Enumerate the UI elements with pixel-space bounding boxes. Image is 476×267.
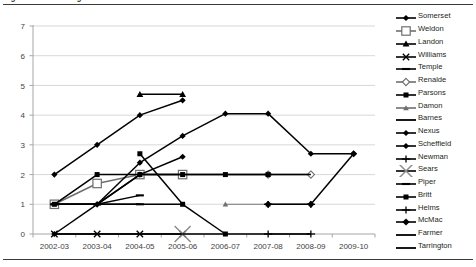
data-point-marker: [402, 155, 410, 162]
gridlines-group: [33, 26, 375, 234]
legend-item-label: Piper: [417, 178, 436, 186]
legend-marker-icon: [395, 100, 417, 112]
x-tick-label: 2008-09: [296, 242, 326, 251]
legend-item-label: Tarrington: [417, 242, 452, 250]
legend-item[interactable]: Somerset: [395, 10, 476, 23]
data-point-marker: [95, 172, 100, 177]
legend-marker-icon: [395, 36, 417, 48]
legend-item-label: Parsons: [417, 89, 446, 97]
legend-item[interactable]: Landon: [395, 36, 476, 49]
legend-item[interactable]: Farmer: [395, 227, 476, 240]
data-point-marker: [93, 179, 101, 187]
legend-item[interactable]: Renalde: [395, 74, 476, 87]
series-segment: [54, 204, 97, 234]
legend-item-label: Scheffield: [417, 140, 451, 148]
series-somerset: [51, 97, 185, 177]
chart-legend: SomersetWeldonLandonWilliamsTempleRenald…: [395, 10, 476, 252]
legend-item-label: Helms: [417, 204, 440, 212]
legend-item[interactable]: Piper: [395, 176, 476, 189]
data-point-marker: [404, 194, 409, 199]
legend-marker-icon: [395, 240, 417, 252]
legend-item[interactable]: Parsons: [395, 87, 476, 100]
legend-item[interactable]: Damon: [395, 99, 476, 112]
y-tick-label: 6: [21, 52, 26, 61]
data-point-marker: [403, 143, 409, 149]
legend-item-label: Somerset: [417, 12, 451, 20]
data-point-marker: [403, 15, 409, 21]
x-tick-label: 2002-03: [40, 242, 70, 251]
legend-marker-icon: [395, 74, 417, 86]
legend-item-label: Renalde: [417, 76, 446, 84]
legend-marker-icon: [395, 214, 417, 226]
legend-item[interactable]: Temple: [395, 61, 476, 74]
data-point-marker: [404, 92, 409, 97]
legend-item-label: Nexus: [417, 127, 440, 135]
legend-marker-icon: [395, 138, 417, 150]
legend-item-label: Sears: [417, 165, 438, 173]
legend-item-label: McMac: [417, 216, 442, 224]
series-segment: [311, 154, 354, 205]
legend-item[interactable]: Britt: [395, 189, 476, 202]
legend-item-label: Barnes: [417, 114, 442, 122]
legend-item[interactable]: McMac: [395, 214, 476, 227]
legend-marker-icon: [395, 87, 417, 99]
series-segment: [183, 114, 226, 136]
legend-item-label: Temple: [417, 63, 442, 71]
figure-root: Figure 3. School Progress: Schools that …: [0, 0, 476, 267]
y-tick-label: 5: [21, 82, 26, 91]
y-axis-line: [30, 25, 376, 238]
data-point-marker: [402, 27, 410, 35]
series-segment: [54, 145, 97, 175]
legend-marker-icon: [395, 112, 417, 124]
data-series-group: [50, 91, 357, 242]
x-tick-label: 2007-08: [253, 242, 283, 251]
y-tick-label: 3: [21, 141, 26, 150]
series-mcmac: [265, 150, 358, 208]
legend-item-label: Landon: [417, 38, 443, 46]
legend-item[interactable]: Nexus: [395, 125, 476, 138]
series-britt: [137, 151, 228, 236]
legend-marker-icon: [395, 202, 417, 214]
legend-item[interactable]: Williams: [395, 48, 476, 61]
legend-item[interactable]: Weldon: [395, 23, 476, 36]
legend-item[interactable]: Tarrington: [395, 240, 476, 253]
legend-item[interactable]: Sears: [395, 163, 476, 176]
x-tick-label: 2006-07: [211, 242, 241, 251]
legend-item-label: Britt: [417, 191, 432, 199]
series-segment: [268, 114, 311, 154]
data-point-marker: [402, 79, 409, 86]
legend-marker-icon: [395, 189, 417, 201]
legend-marker-icon: [395, 49, 417, 61]
series-segment: [183, 204, 226, 234]
legend-item[interactable]: Helms: [395, 201, 476, 214]
legend-marker-icon: [395, 10, 417, 22]
legend-marker-icon: [395, 151, 417, 163]
data-point-marker: [137, 151, 142, 156]
y-tick-label: 7: [21, 22, 26, 31]
x-tick-label: 2009-10: [339, 242, 369, 251]
series-segment: [97, 115, 140, 145]
figure-caption: Figure 3. School Progress: Schools that …: [4, 0, 196, 2]
legend-item-label: Newman: [417, 153, 448, 161]
series-segment: [97, 163, 140, 205]
series-segment: [54, 183, 97, 204]
x-tick-label: 2003-04: [82, 242, 112, 251]
series-landon: [136, 91, 186, 97]
data-point-marker: [180, 97, 186, 103]
legend-marker-icon: [395, 125, 417, 137]
legend-item[interactable]: Barnes: [395, 112, 476, 125]
y-tick-labels-group: 01234567: [21, 22, 26, 239]
legend-item-label: Williams: [417, 51, 446, 59]
data-point-marker: [402, 206, 410, 213]
legend-marker-icon: [395, 163, 417, 175]
legend-marker-icon: [395, 227, 417, 239]
data-point-marker: [222, 111, 228, 117]
y-tick-label: 2: [21, 171, 26, 180]
legend-item[interactable]: Scheffield: [395, 138, 476, 151]
series-nexus: [94, 111, 357, 208]
series-segment: [140, 100, 183, 115]
y-tick-label: 0: [21, 230, 26, 239]
x-tick-label: 2005-06: [168, 242, 198, 251]
data-point-marker: [403, 130, 409, 136]
legend-item[interactable]: Newman: [395, 150, 476, 163]
